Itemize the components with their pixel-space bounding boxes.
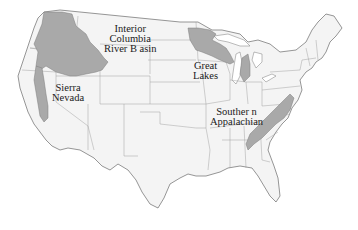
- label-great-lakes: Great Lakes: [193, 61, 218, 81]
- label-interior-columbia: Interior Columbia River B asin: [104, 24, 157, 54]
- map-canvas: [0, 0, 358, 230]
- us-map: Interior Columbia River B asin Sierra Ne…: [0, 0, 358, 230]
- label-southern-appalachian: Souther n Appalachian: [210, 107, 263, 127]
- label-line: Nevada: [52, 93, 84, 103]
- label-sierra-nevada: Sierra Nevada: [52, 83, 84, 103]
- label-line: River B asin: [104, 44, 157, 54]
- label-line: Lakes: [193, 71, 218, 81]
- label-line: Appalachian: [210, 117, 263, 127]
